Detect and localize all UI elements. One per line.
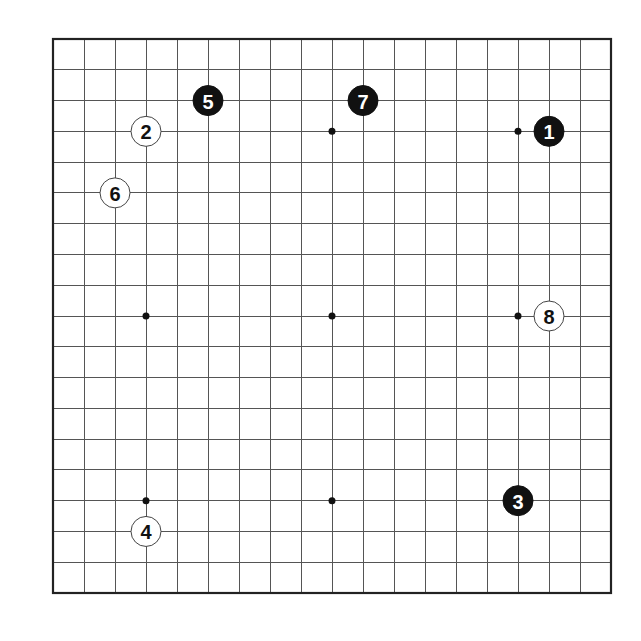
move-number: 5 xyxy=(202,91,213,113)
move-number: 7 xyxy=(357,91,368,113)
move-number: 4 xyxy=(140,521,152,543)
star-point xyxy=(143,313,150,320)
star-point xyxy=(329,128,336,135)
stone-white-move-2[interactable]: 2 xyxy=(131,116,161,146)
move-number: 6 xyxy=(109,183,120,205)
stone-black-move-1[interactable]: 1 xyxy=(534,116,564,146)
star-point xyxy=(515,313,522,320)
go-board[interactable]: 12345678 xyxy=(0,0,641,641)
stone-white-move-6[interactable]: 6 xyxy=(100,178,130,208)
move-number: 1 xyxy=(543,121,554,143)
star-point xyxy=(515,128,522,135)
stone-black-move-7[interactable]: 7 xyxy=(348,86,378,116)
go-board-canvas[interactable]: 12345678 xyxy=(0,0,641,641)
star-point xyxy=(329,497,336,504)
stone-white-move-4[interactable]: 4 xyxy=(131,516,161,546)
move-number: 3 xyxy=(512,491,523,513)
stone-black-move-5[interactable]: 5 xyxy=(193,86,223,116)
move-number: 8 xyxy=(543,306,554,328)
move-number: 2 xyxy=(140,121,151,143)
star-point xyxy=(329,313,336,320)
stone-black-move-3[interactable]: 3 xyxy=(503,486,533,516)
stone-white-move-8[interactable]: 8 xyxy=(534,301,564,331)
star-point xyxy=(143,497,150,504)
